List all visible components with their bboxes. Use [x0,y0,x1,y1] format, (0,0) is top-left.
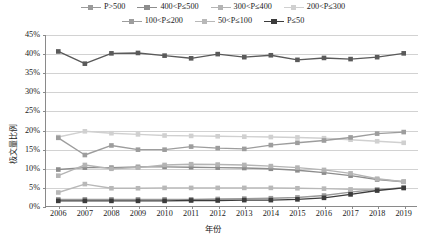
chart-root: P>500400<P≤500300<P≤400200<P≤300 100<P≤2… [0,0,426,241]
data-point-marker [56,49,61,54]
data-point-marker [375,55,380,60]
data-point-marker [401,186,406,191]
data-point-marker [109,186,114,191]
data-point-marker [215,186,220,191]
data-point-marker [162,147,167,152]
y-tick-label: 25% [14,107,40,115]
data-point-marker [56,167,61,172]
data-point-marker [295,135,300,140]
data-point-marker [83,153,88,158]
data-point-marker [189,162,194,167]
data-point-marker [162,133,167,138]
data-point-marker [242,147,247,152]
series-line [56,49,406,66]
data-point-marker [375,176,380,181]
legend-label: 200<P≤300 [307,3,345,11]
data-point-marker [109,131,114,136]
data-point-marker [56,190,61,195]
data-point-marker [295,58,300,63]
x-tick-label: 2007 [77,210,93,218]
legend-label: P>500 [104,3,125,11]
data-point-marker [136,147,141,152]
data-point-marker [375,131,380,136]
y-axis-title: 极文量比例 [0,0,10,90]
data-point-marker [189,186,194,191]
series-line [56,182,406,195]
series-lines [45,35,417,207]
data-point-marker [136,132,141,137]
data-point-marker [109,51,114,56]
data-point-marker [136,186,141,191]
data-point-marker [162,163,167,168]
data-point-marker [242,186,247,191]
data-point-marker [322,56,327,61]
y-tick-label: 15% [14,146,40,154]
data-point-marker [83,163,88,168]
data-point-marker [162,53,167,58]
legend-item[interactable]: P≤50 [264,17,304,26]
legend-item[interactable]: 300<P≤400 [211,3,272,12]
data-point-marker [401,51,406,56]
data-point-marker [83,61,88,66]
legend-item[interactable]: 400<P≤500 [137,3,198,12]
x-tick-label: 2018 [369,210,385,218]
legend-marker-icon [284,3,304,12]
x-tick-label: 2011 [183,210,199,218]
y-tick-mark [43,207,46,208]
series-line [56,162,406,184]
x-tick-label: 2010 [156,210,172,218]
legend-marker-icon [195,17,215,26]
data-point-marker [375,188,380,193]
legend-row-1: P>500400<P≤500300<P≤400200<P≤300 [0,0,426,14]
x-tick-label: 2017 [342,210,358,218]
x-tick-label: 2006 [50,210,66,218]
x-tick-label: 2016 [316,210,332,218]
data-point-marker [136,165,141,170]
legend-item[interactable]: 200<P≤300 [284,3,345,12]
data-point-marker [162,199,167,204]
data-point-marker [295,186,300,191]
data-point-marker [215,52,220,57]
legend-label: 50<P≤100 [218,17,252,25]
y-tick-label: 45% [14,31,40,39]
y-tick-label: 30% [14,88,40,96]
x-tick-label: 2012 [210,210,226,218]
data-point-marker [269,164,274,169]
data-point-marker [109,166,114,171]
legend-label: 300<P≤400 [234,3,272,11]
data-point-marker [215,134,220,139]
legend-label: P≤50 [287,17,304,25]
x-axis-title: 年份 [0,222,426,234]
data-point-marker [136,199,141,204]
data-point-marker [109,199,114,204]
legend-item[interactable]: 100<P≤200 [122,17,183,26]
data-point-marker [348,57,353,62]
data-point-marker [269,186,274,191]
data-point-marker [56,199,61,204]
data-point-marker [242,198,247,203]
y-tick-label: 0% [14,203,40,211]
data-point-marker [83,182,88,187]
data-point-marker [242,163,247,168]
data-point-marker [83,129,88,134]
legend-row-2: 100<P≤20050<P≤100P≤50 [0,14,426,28]
data-point-marker [348,192,353,197]
legend-marker-icon [211,3,231,12]
legend-item[interactable]: P>500 [81,3,125,12]
x-tick-label: 2014 [263,210,279,218]
legend-item[interactable]: 50<P≤100 [195,17,252,26]
data-point-marker [348,135,353,140]
legend-marker-icon [137,3,157,12]
data-point-marker [269,143,274,148]
data-point-marker [348,171,353,176]
data-point-marker [295,140,300,145]
y-tick-label: 20% [14,127,40,135]
data-point-marker [348,187,353,192]
data-point-marker [136,51,141,56]
data-point-marker [189,134,194,139]
x-axis-tick-labels: 2006200720082009201020112012201320142015… [45,210,417,222]
data-point-marker [401,140,406,145]
x-axis-title-text: 年份 [205,225,221,234]
data-point-marker [401,130,406,135]
series-line [56,130,406,158]
